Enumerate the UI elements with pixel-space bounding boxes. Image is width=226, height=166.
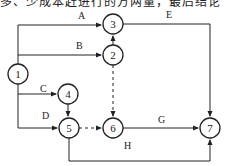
node-3: 3 — [103, 14, 123, 34]
svg-text:1: 1 — [15, 68, 21, 80]
label-E: E — [166, 9, 172, 20]
label-C: C — [40, 83, 47, 94]
activity-A-arrow — [18, 25, 101, 64]
svg-text:6: 6 — [110, 122, 116, 134]
node-6: 6 — [103, 118, 123, 138]
svg-text:4: 4 — [65, 88, 71, 100]
svg-text:3: 3 — [110, 18, 116, 30]
svg-text:7: 7 — [207, 122, 213, 134]
node-5: 5 — [59, 118, 79, 138]
activity-D-arrow — [18, 94, 57, 128]
label-B: B — [76, 40, 83, 51]
node-1: 1 — [8, 64, 28, 84]
node-7: 7 — [200, 118, 220, 138]
activity-H-arrow — [69, 138, 210, 161]
label-H: H — [124, 140, 131, 151]
node-2: 2 — [103, 45, 123, 65]
svg-text:2: 2 — [110, 49, 116, 61]
activity-E-arrow — [123, 24, 210, 116]
label-G: G — [158, 114, 165, 125]
network-diagram: 1 2 3 4 5 6 7 A B C D E G H — [0, 0, 226, 166]
label-A: A — [78, 10, 86, 21]
node-4: 4 — [58, 84, 78, 104]
activity-C-arrow — [18, 84, 56, 94]
svg-text:5: 5 — [66, 122, 72, 134]
label-D: D — [42, 110, 49, 121]
